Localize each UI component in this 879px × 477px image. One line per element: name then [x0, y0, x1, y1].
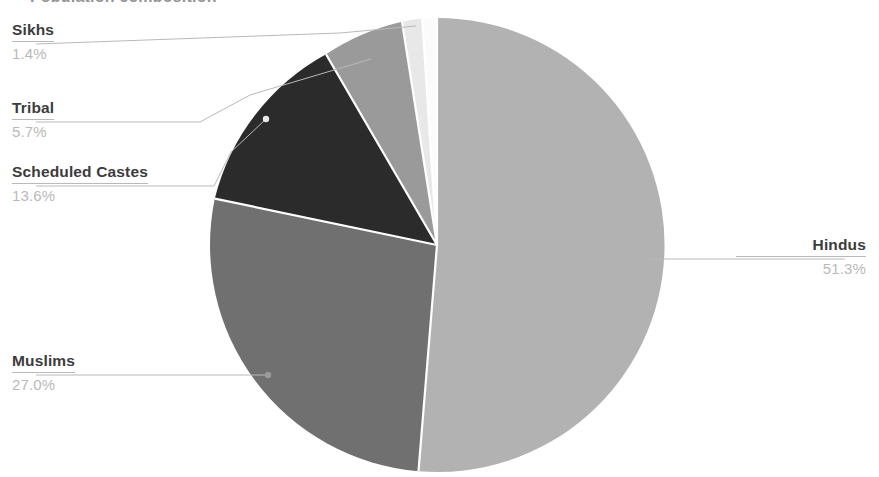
callout-tribal[interactable]: Tribal 5.7%	[12, 100, 54, 140]
callout-label-scheduled-castes: Scheduled Castes	[12, 164, 148, 180]
callout-hindus[interactable]: Hindus 51.3%	[736, 237, 866, 277]
pie-chart: Population composition	[0, 0, 879, 477]
callout-value-tribal: 5.7%	[12, 120, 54, 140]
callout-sikhs[interactable]: Sikhs 1.4%	[12, 22, 54, 62]
callout-label-hindus: Hindus	[736, 237, 866, 253]
callout-value-hindus: 51.3%	[736, 257, 866, 277]
callout-value-scheduled-castes: 13.6%	[12, 184, 148, 204]
callout-value-muslims: 27.0%	[12, 373, 75, 393]
callout-value-sikhs: 1.4%	[12, 42, 54, 62]
callout-label-sikhs: Sikhs	[12, 22, 54, 38]
anchor-dot-scheduled-castes	[263, 116, 269, 122]
callout-label-tribal: Tribal	[12, 100, 54, 116]
pie-slice-hindus[interactable]	[419, 18, 665, 472]
pie-slice-muslims[interactable]	[210, 199, 437, 472]
callout-scheduled-castes[interactable]: Scheduled Castes 13.6%	[12, 164, 148, 204]
anchor-dot-muslims	[265, 372, 271, 378]
callout-label-muslims: Muslims	[12, 353, 75, 369]
callout-muslims[interactable]: Muslims 27.0%	[12, 353, 75, 393]
